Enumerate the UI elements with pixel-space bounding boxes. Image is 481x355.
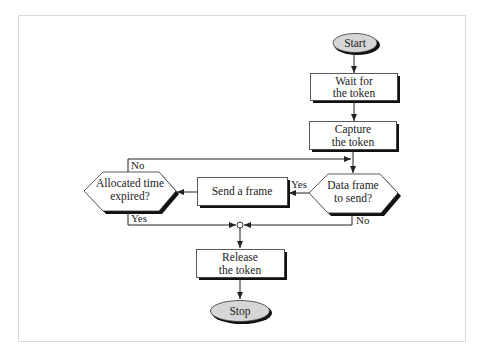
data-frame-label-2: to send? [334, 192, 372, 204]
data-frame-no-label: No [356, 214, 370, 226]
capture-label-2: the token [332, 136, 375, 148]
send-frame-node: Send a frame [198, 178, 291, 209]
send-frame-label: Send a frame [212, 185, 273, 197]
allocated-label-2: expired? [110, 190, 150, 203]
allocated-label-1: Allocated time [96, 177, 164, 189]
release-label-2: the token [219, 264, 262, 276]
data-frame-decision: Data frame to send? [309, 174, 401, 216]
junction-connector [237, 222, 243, 228]
stop-node: Stop [211, 301, 273, 325]
data-frame-label-1: Data frame [327, 179, 378, 191]
stop-label: Stop [229, 305, 250, 318]
wait-node: Wait for the token [311, 74, 401, 104]
flowchart-canvas: Start Wait for the token Capture the tok… [0, 0, 481, 355]
allocated-no-label: No [131, 159, 145, 171]
edge-allocated-no-loop [128, 159, 351, 172]
release-label-1: Release [222, 251, 258, 263]
start-node: Start [333, 34, 380, 56]
capture-label-1: Capture [335, 123, 371, 136]
release-node: Release the token [197, 250, 288, 281]
start-label: Start [344, 37, 367, 49]
allocated-time-decision: Allocated time expired? [84, 172, 179, 214]
wait-label-1: Wait for [335, 75, 373, 87]
wait-label-2: the token [333, 87, 376, 99]
data-frame-yes-label: Yes [291, 178, 307, 190]
capture-node: Capture the token [310, 122, 400, 153]
allocated-yes-label: Yes [131, 212, 147, 224]
